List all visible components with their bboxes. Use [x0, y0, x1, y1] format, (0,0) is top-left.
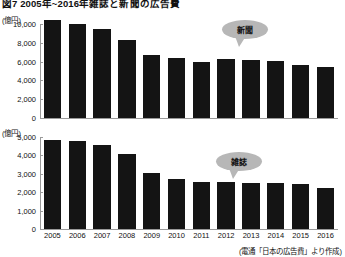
x-tick-label: 2011 [189, 231, 214, 240]
x-tick-label: 2013 [239, 231, 264, 240]
bar [217, 182, 234, 229]
bar [93, 145, 110, 229]
bar [69, 141, 86, 229]
x-axis-year-labels: 2005200620072008200920102011201220132014… [40, 231, 338, 240]
bar [242, 60, 259, 118]
bar [193, 182, 210, 229]
bar [118, 40, 135, 118]
y-tick-label: 5,000 [0, 133, 36, 142]
x-tick-label: 2016 [313, 231, 338, 240]
callout-label-newspaper: 新聞 [237, 24, 254, 35]
bar [292, 184, 309, 229]
bar [44, 20, 61, 118]
callout-magazine: 雑誌 [216, 152, 262, 171]
x-tick-label: 2009 [139, 231, 164, 240]
y-tick-label: 0 [0, 225, 36, 234]
bar [93, 29, 110, 118]
bar [143, 55, 160, 118]
bar-series-newspaper [40, 24, 338, 118]
chart-page: 図7 2005年~2016年雑誌と新聞の広告費 (億円) 02,0004,000… [0, 0, 345, 257]
y-tick-label: 10,000 [0, 20, 36, 29]
bar [292, 65, 309, 118]
bar [242, 183, 259, 229]
bar [267, 61, 284, 118]
callout-tail-magazine [229, 168, 240, 179]
y-tick-label: 1,000 [0, 206, 36, 215]
y-tick-label: 2,000 [0, 188, 36, 197]
callout-tail-newspaper [235, 36, 246, 47]
x-tick-label: 2015 [288, 231, 313, 240]
bar-series-magazine [40, 137, 338, 229]
source-note: (電通「日本の広告費」より作成) [239, 245, 342, 256]
bar [143, 173, 160, 229]
callout-newspaper: 新聞 [222, 20, 268, 39]
y-tick-mark [40, 118, 43, 119]
page-title: 図7 2005年~2016年雑誌と新聞の広告費 [2, 0, 180, 10]
x-tick-label: 2014 [263, 231, 288, 240]
y-tick-label: 6,000 [0, 57, 36, 66]
bar [217, 59, 234, 118]
bar [267, 183, 284, 229]
x-tick-label: 2007 [90, 231, 115, 240]
y-tick-mark [40, 229, 43, 230]
bar [168, 179, 185, 229]
x-tick-label: 2012 [214, 231, 239, 240]
x-tick-label: 2008 [114, 231, 139, 240]
y-tick-label: 8,000 [0, 38, 36, 47]
bar [193, 62, 210, 118]
y-tick-label: 4,000 [0, 151, 36, 160]
x-tick-label: 2005 [40, 231, 65, 240]
y-tick-label: 0 [0, 114, 36, 123]
bar [168, 58, 185, 118]
y-tick-label: 2,000 [0, 95, 36, 104]
x-axis-line-bottom [40, 229, 338, 230]
x-axis-line-top [40, 118, 338, 119]
bar [317, 188, 334, 229]
bar [317, 67, 334, 118]
x-tick-label: 2006 [65, 231, 90, 240]
callout-label-magazine: 雑誌 [231, 156, 248, 167]
y-tick-label: 4,000 [0, 76, 36, 85]
bar [118, 154, 135, 229]
y-tick-label: 3,000 [0, 169, 36, 178]
x-tick-label: 2010 [164, 231, 189, 240]
bar [69, 24, 86, 118]
bar [44, 140, 61, 229]
